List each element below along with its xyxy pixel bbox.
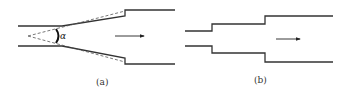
pipe-b-top-wall <box>185 16 333 31</box>
dashed-cone-top <box>28 11 125 36</box>
pipe-b-bottom-wall <box>185 46 333 62</box>
dashed-cone-bottom <box>28 36 125 62</box>
panel-b-label: (b) <box>254 75 267 85</box>
panel-a-label: (a) <box>96 77 108 87</box>
pipe-expansion-diagram: α (a) (b) <box>0 0 351 92</box>
angle-arc-icon <box>56 29 59 43</box>
angle-alpha-label: α <box>60 31 66 41</box>
panel-a: α (a) <box>18 10 175 87</box>
pipe-a-bottom-wall <box>18 46 175 64</box>
panel-b: (b) <box>185 16 333 85</box>
